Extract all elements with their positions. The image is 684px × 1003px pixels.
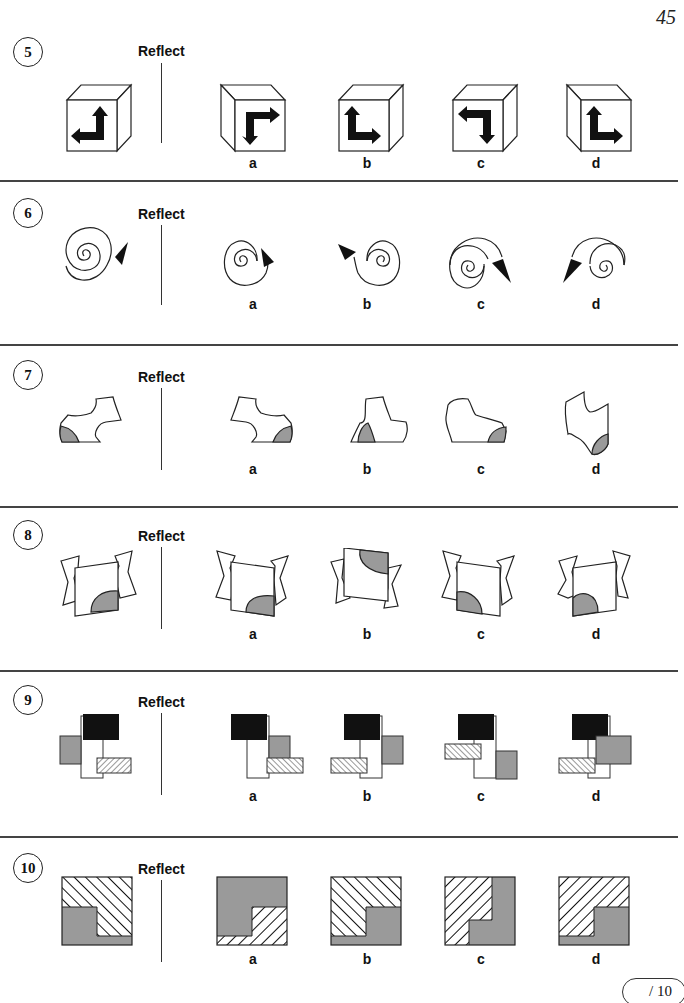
option-label-d: d [586,626,606,642]
question-number: 6 [13,198,43,228]
rectangles-option-c[interactable] [444,712,524,782]
section-divider [0,836,678,838]
option-label-b: b [357,626,377,642]
option-label-a: a [243,296,263,312]
cube-option-d[interactable] [564,80,634,166]
option-label-c: c [471,155,491,171]
folded-sheet-option-a[interactable] [214,550,294,620]
curved-shape-option-d[interactable] [556,382,636,462]
question-number: 8 [13,520,43,550]
cube-option-b[interactable] [336,80,406,166]
option-label-b: b [357,951,377,967]
curved-shape-question [58,395,138,455]
square-option-b[interactable] [330,876,404,948]
rectangles-option-a[interactable] [224,712,304,782]
instruction-label: Reflect [138,206,185,222]
rectangles-question [58,712,138,782]
option-label-b: b [357,296,377,312]
square-question [61,876,135,948]
rectangles-option-b[interactable] [330,712,410,782]
option-label-d: d [586,155,606,171]
section-divider [0,344,678,346]
mirror-line [161,388,162,470]
curved-shape-option-a[interactable] [214,395,294,455]
option-label-c: c [471,788,491,804]
question-number: 10 [13,853,43,883]
mirror-line [161,225,162,305]
instruction-label: Reflect [138,43,185,59]
instruction-label: Reflect [138,694,185,710]
curved-shape-option-b[interactable] [328,395,408,455]
option-label-a: a [243,951,263,967]
cube-option-a[interactable] [218,80,288,166]
option-label-a: a [243,626,263,642]
square-option-a[interactable] [216,876,290,948]
option-label-d: d [586,951,606,967]
mirror-line [161,880,162,962]
question-number: 9 [13,685,43,715]
option-label-d: d [586,788,606,804]
score-box[interactable]: / 10 [622,978,684,1003]
spiral-option-a[interactable] [214,225,294,305]
mirror-line [161,713,162,795]
spiral-option-c[interactable] [440,225,520,305]
rectangles-option-d[interactable] [558,712,638,782]
option-label-b: b [357,788,377,804]
section-divider [0,670,678,672]
spiral-option-b[interactable] [330,225,410,305]
folded-sheet-question [58,550,138,620]
folded-sheet-option-d[interactable] [556,550,636,620]
option-label-b: b [357,155,377,171]
question-number: 7 [13,360,43,390]
square-option-d[interactable] [558,876,632,948]
spiral-option-d[interactable] [556,225,636,305]
option-label-c: c [471,951,491,967]
mirror-line [161,547,162,629]
option-label-c: c [471,296,491,312]
folded-sheet-option-c[interactable] [440,550,520,620]
option-label-b: b [357,461,377,477]
page-number: 45 [656,6,676,29]
option-label-d: d [586,461,606,477]
folded-sheet-option-b[interactable] [328,548,408,618]
option-label-a: a [243,461,263,477]
question-number: 5 [13,37,43,67]
square-option-c[interactable] [444,876,518,948]
mirror-line [161,63,162,143]
cube-option-c[interactable] [450,80,520,166]
option-label-c: c [471,626,491,642]
spiral-figure-question [60,225,140,305]
option-label-a: a [243,788,263,804]
instruction-label: Reflect [138,861,185,877]
option-label-d: d [586,296,606,312]
section-divider [0,506,678,508]
section-divider [0,180,678,182]
curved-shape-option-c[interactable] [440,395,520,455]
option-label-a: a [243,155,263,171]
option-label-c: c [471,461,491,477]
instruction-label: Reflect [138,369,185,385]
instruction-label: Reflect [138,528,185,544]
cube-figure-question [64,80,134,166]
